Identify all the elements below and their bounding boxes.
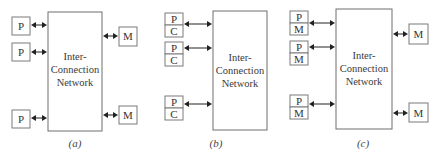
memory-label: M <box>123 30 133 42</box>
panel-caption: (a) <box>69 137 82 150</box>
network-label-line-1: Inter- <box>228 52 252 63</box>
bidirectional-arrow <box>31 22 47 28</box>
processor-label: P <box>171 13 177 25</box>
processor-node: P <box>12 110 47 128</box>
memory-node: M <box>393 103 428 122</box>
bidirectional-arrow <box>31 115 47 121</box>
processor-label: P <box>18 113 24 125</box>
processor-label: P <box>171 42 177 54</box>
processor-label: P <box>296 11 302 23</box>
processor-cache-node: P C <box>165 42 212 66</box>
bidirectional-arrow <box>31 49 47 55</box>
processor-cache-node: P C <box>165 96 212 120</box>
bidirectional-arrow <box>393 110 408 116</box>
panel-caption: (b) <box>210 137 223 150</box>
memory-label: M <box>414 28 424 40</box>
bidirectional-arrow <box>184 45 212 51</box>
network-label-line-3: Network <box>222 78 259 89</box>
bidirectional-arrow <box>103 112 118 118</box>
processor-node: P <box>12 43 47 61</box>
memory-node: M <box>393 24 428 44</box>
network-label-line-2: Connection <box>340 63 389 74</box>
cache-label: C <box>170 108 177 120</box>
processor-label: P <box>296 41 302 53</box>
cache-label: C <box>170 25 177 37</box>
bidirectional-arrow <box>309 20 335 26</box>
network-label-line-1: Inter- <box>63 51 87 62</box>
panel-b: Inter- Connection Network P C P C <box>165 11 267 150</box>
processor-label: P <box>18 46 24 58</box>
memory-label: M <box>294 53 304 65</box>
cache-label: C <box>170 54 177 66</box>
panel-a: Inter- Connection Network P P P <box>12 12 137 150</box>
processor-memory-node: P M <box>290 41 335 65</box>
processor-label: P <box>296 95 302 107</box>
memory-node: M <box>103 106 137 124</box>
network-label-line-3: Network <box>346 76 383 87</box>
processor-cache-node: P C <box>165 13 212 37</box>
memory-label: M <box>414 107 424 119</box>
panel-caption: (c) <box>357 137 370 150</box>
network-label-line-3: Network <box>57 77 94 88</box>
diagram-svg: Inter- Connection Network P P P <box>0 0 439 157</box>
bidirectional-arrow <box>309 44 335 50</box>
network-label-line-2: Connection <box>216 65 265 76</box>
processor-memory-node: P M <box>290 95 335 119</box>
memory-label: M <box>294 107 304 119</box>
memory-label: M <box>123 109 133 121</box>
interconnection-diagram: Inter- Connection Network P P P <box>0 0 439 157</box>
processor-label: P <box>171 96 177 108</box>
processor-memory-node: P M <box>290 11 335 35</box>
processor-label: P <box>18 20 24 32</box>
processor-node: P <box>12 17 47 35</box>
bidirectional-arrow <box>184 101 212 107</box>
bidirectional-arrow <box>393 31 408 37</box>
panel-c: Inter- Connection Network P M P M <box>290 9 428 150</box>
bidirectional-arrow <box>184 21 212 27</box>
bidirectional-arrow <box>103 33 118 39</box>
network-label-line-1: Inter- <box>352 50 376 61</box>
memory-label: M <box>294 23 304 35</box>
network-label-line-2: Connection <box>51 64 100 75</box>
bidirectional-arrow <box>309 101 335 107</box>
memory-node: M <box>103 27 137 46</box>
